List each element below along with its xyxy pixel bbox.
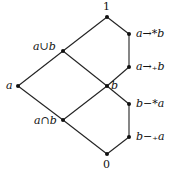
node-meet: [61, 118, 65, 122]
label-impl-star: a→*b: [136, 28, 164, 40]
label-b: b: [111, 80, 118, 92]
edge-b-meet: [63, 86, 107, 120]
node-b: [105, 84, 109, 88]
edge-join-b: [63, 51, 107, 86]
node-impl-star: [127, 32, 131, 36]
label-diff-sub: b−₊a: [136, 131, 165, 143]
edge-join-a: [18, 51, 63, 86]
node-impl-sub: [127, 65, 131, 69]
label-meet: a∩b: [34, 115, 57, 127]
label-impl-sub: a→₊b: [136, 61, 165, 73]
label-bottom: 0: [103, 159, 110, 171]
node-a: [16, 84, 20, 88]
label-top: 1: [103, 1, 110, 13]
label-diff-star: b−*a: [136, 98, 164, 110]
label-a: a: [6, 80, 13, 92]
node-join: [61, 49, 65, 53]
node-bottom: [105, 152, 109, 156]
node-top: [105, 15, 109, 19]
label-join: a∪b: [33, 41, 56, 53]
node-diff-sub: [127, 135, 131, 139]
edge-top-join: [63, 17, 107, 51]
edge-meet-bottom: [63, 120, 107, 154]
edge-top-impl-star: [107, 17, 129, 34]
node-diff-star: [127, 102, 131, 106]
edge-diff-sub-bottom: [107, 137, 129, 154]
